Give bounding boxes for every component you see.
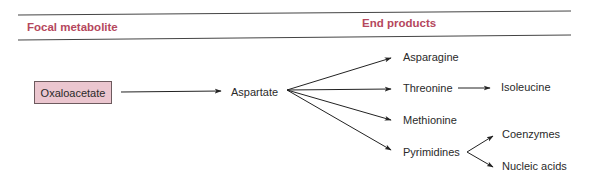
header-top-rule (18, 11, 571, 15)
methionine-label: Methionine (403, 114, 457, 126)
arrow-aspartate-pyrimidines (287, 90, 391, 150)
isoleucine-label: Isoleucine (501, 81, 551, 93)
asparagine-label: Asparagine (403, 51, 459, 63)
nucleic-acids-label: Nucleic acids (502, 160, 567, 172)
end-products-header: End products (362, 17, 436, 30)
arrow-oxaloacetate-aspartate (121, 91, 221, 92)
arrow-aspartate-threonine (287, 89, 391, 90)
header-bottom-rule (18, 35, 571, 40)
arrow-pyrimidines-nucleic-acids (467, 152, 493, 167)
oxaloacetate-label: Oxaloacetate (41, 87, 106, 99)
coenzymes-label: Coenzymes (502, 128, 560, 140)
arrow-aspartate-methionine (287, 90, 391, 120)
arrow-pyrimidines-coenzymes (467, 136, 493, 152)
aspartate-label: Aspartate (231, 86, 278, 98)
focal-metabolite-header: Focal metabolite (27, 21, 118, 34)
pyrimidines-label: Pyrimidines (403, 146, 460, 158)
oxaloacetate-box: Oxaloacetate (34, 81, 112, 104)
threonine-label: Threonine (403, 82, 453, 94)
arrow-aspartate-asparagine (287, 58, 391, 90)
